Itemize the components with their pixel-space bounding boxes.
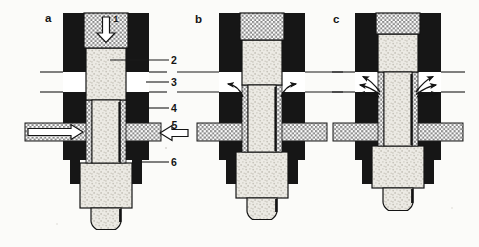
piston-tip-a xyxy=(91,208,121,230)
valve-diagram: 1 a 2 3 4 5 6 b xyxy=(0,0,479,247)
piston-body-a xyxy=(86,48,126,100)
part-label-3: 3 xyxy=(171,76,177,88)
piston-tip-c xyxy=(383,188,413,211)
panel-label-c: c xyxy=(333,13,340,25)
bore-lining-left-a xyxy=(86,100,92,163)
bore-lining-right-a xyxy=(120,100,126,163)
part-label-4: 4 xyxy=(171,102,177,114)
piston-stem-c xyxy=(384,72,412,146)
piston-stem-b xyxy=(248,85,276,152)
piston-body-b xyxy=(242,40,282,85)
piston-collar-a xyxy=(80,163,132,208)
panel-label-a: a xyxy=(45,12,52,24)
part-label-6: 6 xyxy=(171,156,177,168)
bore-lining-right-c xyxy=(412,72,418,146)
piston-cap-c xyxy=(376,13,420,34)
piston-cap-b xyxy=(240,13,284,40)
piston-stem-a xyxy=(92,100,120,163)
piston-collar-c xyxy=(372,146,424,188)
part-label-2: 2 xyxy=(171,54,177,66)
piston-body-c xyxy=(378,34,418,72)
piston-collar-b xyxy=(236,152,288,198)
figure-canvas: 1 a 2 3 4 5 6 b xyxy=(0,0,479,247)
panel-label-b: b xyxy=(195,13,202,25)
part-label-5: 5 xyxy=(172,119,178,131)
part-label-1: 1 xyxy=(114,14,119,24)
piston-tip-b xyxy=(247,198,277,220)
bore-lining-left-c xyxy=(378,72,384,146)
